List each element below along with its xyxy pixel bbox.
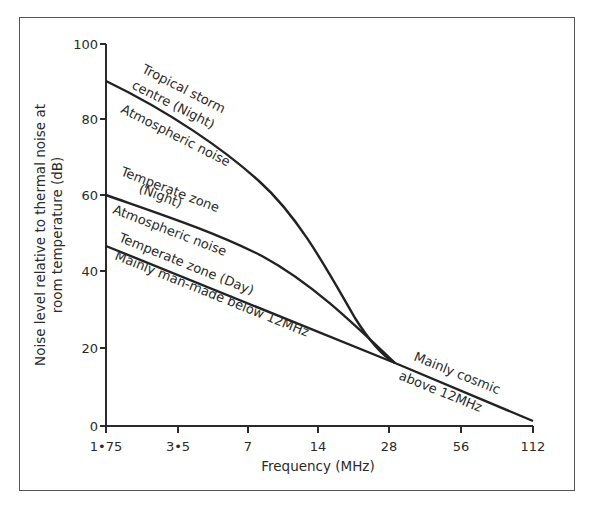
- noise-chart: 100 80 60 40 20 0 1•75 3•5 7 14 28 56 11…: [0, 0, 589, 511]
- x-tick-1-75: 1•75: [90, 439, 122, 454]
- x-tick-28: 28: [381, 439, 398, 454]
- x-tick-3-5: 3•5: [166, 439, 190, 454]
- x-tick-labels: 1•75 3•5 7 14 28 56 112: [90, 439, 546, 454]
- label-man-made: Mainly man-made below 12MHz: [113, 248, 312, 340]
- y-tick-60: 60: [81, 188, 98, 203]
- y-axis-title-line2: room temperature (dB): [49, 157, 65, 314]
- x-axis-title: Frequency (MHz): [261, 458, 374, 474]
- y-tick-40: 40: [81, 264, 98, 279]
- x-tick-112: 112: [521, 439, 546, 454]
- x-ticks: [106, 426, 533, 433]
- y-tick-0: 0: [90, 419, 98, 434]
- x-tick-7: 7: [244, 439, 252, 454]
- x-tick-56: 56: [453, 439, 470, 454]
- x-tick-14: 14: [310, 439, 327, 454]
- y-tick-100: 100: [73, 37, 98, 52]
- y-tick-labels: 100 80 60 40 20 0: [73, 37, 98, 434]
- y-tick-80: 80: [81, 112, 98, 127]
- y-axis-title-line1: Noise level relative to thermal noise at: [32, 104, 48, 366]
- y-tick-20: 20: [81, 341, 98, 356]
